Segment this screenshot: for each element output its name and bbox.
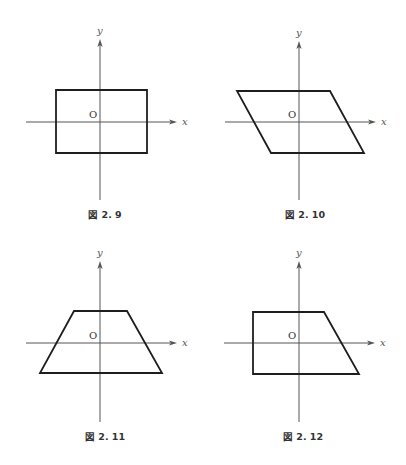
figure-caption: 図 2. 9 xyxy=(88,209,121,220)
figure-caption: 図 2. 10 xyxy=(285,209,325,220)
x-axis-label: x xyxy=(182,337,188,348)
x-axis-label: x xyxy=(381,116,387,127)
y-axis-label: y xyxy=(96,25,103,36)
y-axis-label: y xyxy=(295,247,302,258)
figure-2-11: x y O 図 2. 11 xyxy=(26,247,188,442)
figure-2-12: x y O 図 2. 12 xyxy=(224,247,386,442)
figure-caption: 図 2. 11 xyxy=(85,431,125,442)
figure-2-9: x y O 図 2. 9 xyxy=(26,25,188,220)
x-axis-label: x xyxy=(380,337,386,348)
y-axis-label: y xyxy=(295,27,302,38)
trapezoid-shape xyxy=(40,311,162,373)
figure-2-10: x y O 図 2. 10 xyxy=(225,27,387,220)
origin-label: O xyxy=(288,109,296,120)
y-axis-label: y xyxy=(96,247,103,258)
origin-label: O xyxy=(89,109,97,120)
origin-label: O xyxy=(89,330,97,341)
figure-sheet: x y O 図 2. 9 x y O 図 2. 10 x y O 図 2. 11… xyxy=(0,0,406,465)
origin-label: O xyxy=(288,330,296,341)
x-axis-label: x xyxy=(182,116,188,127)
figure-caption: 図 2. 12 xyxy=(283,431,323,442)
